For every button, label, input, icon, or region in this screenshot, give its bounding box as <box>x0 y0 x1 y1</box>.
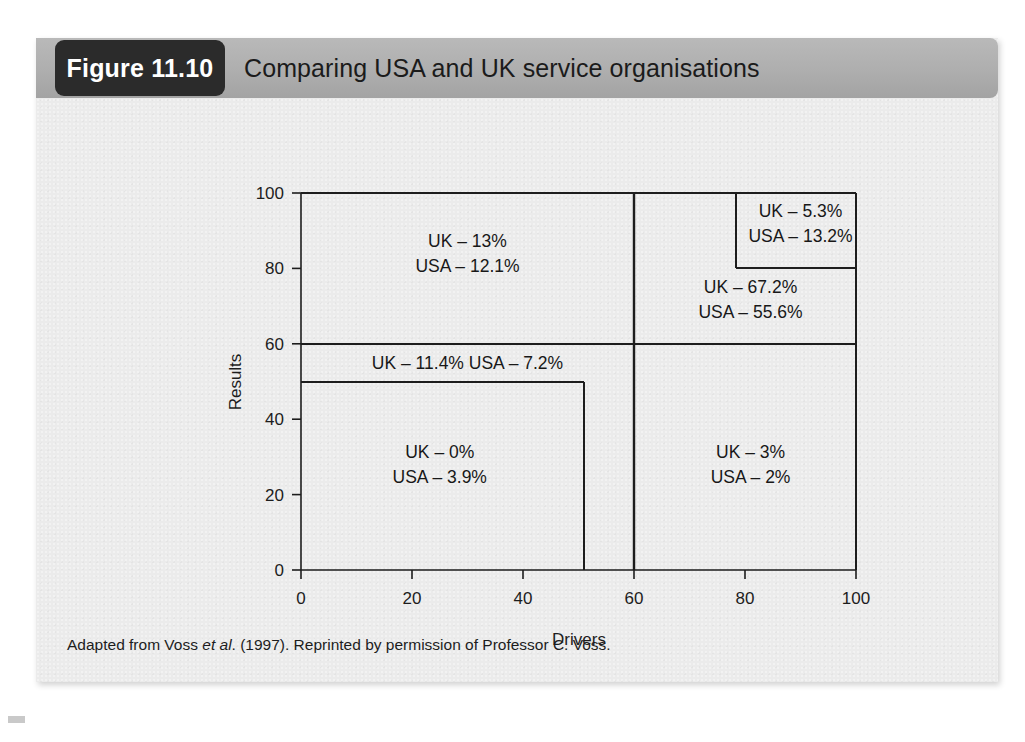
x-tick-label: 80 <box>736 589 755 608</box>
region-label-top-right-inner: USA – 13.2% <box>748 226 852 246</box>
page-edge-mark <box>8 716 25 723</box>
y-tick-label: 60 <box>265 335 284 354</box>
figure-title: Comparing USA and UK service organisatio… <box>244 38 760 98</box>
chart-region-lines <box>301 193 856 570</box>
region-label-middle-band: UK – 11.4% USA – 7.2% <box>372 353 563 373</box>
x-tick-label: 0 <box>296 589 305 608</box>
quadrant-chart: 020406080100 020406080100 <box>36 98 998 682</box>
region-label-top-right-inner: UK – 5.3% <box>759 201 843 221</box>
source-note-suffix: . (1997). Reprinted by permission of Pro… <box>232 636 611 653</box>
y-tick-label: 20 <box>265 486 284 505</box>
region-label-bottom-left: UK – 0% <box>405 442 474 462</box>
source-note-prefix: Adapted from Voss <box>67 636 202 653</box>
region-label-bottom-right: USA – 2% <box>711 467 791 487</box>
region-label-top-right-outer: UK – 67.2% <box>704 277 797 297</box>
region-label-top-left: USA – 12.1% <box>415 256 519 276</box>
region-label-bottom-left: USA – 3.9% <box>393 467 487 487</box>
source-note: Adapted from Voss et al. (1997). Reprint… <box>67 636 611 654</box>
figure-number-tag: Figure 11.10 <box>55 40 225 96</box>
x-tick-label: 20 <box>403 589 422 608</box>
x-tick-label: 40 <box>514 589 533 608</box>
source-note-italic: et al <box>202 636 231 653</box>
x-tick-label: 100 <box>842 589 870 608</box>
chart-plot-area: 020406080100 020406080100 <box>36 98 998 682</box>
y-tick-label: 0 <box>275 561 284 580</box>
x-axis-ticks: 020406080100 <box>296 570 870 608</box>
y-tick-label: 100 <box>256 184 284 203</box>
figure-card: Figure 11.10 Comparing USA and UK servic… <box>36 38 998 682</box>
chart-axes: 020406080100 020406080100 <box>256 184 871 608</box>
region-label-bottom-right: UK – 3% <box>716 442 785 462</box>
y-axis-ticks: 020406080100 <box>256 184 301 580</box>
region-label-top-right-outer: USA – 55.6% <box>698 302 802 322</box>
x-tick-label: 60 <box>625 589 644 608</box>
y-tick-label: 80 <box>265 259 284 278</box>
y-tick-label: 40 <box>265 410 284 429</box>
y-axis-title: Results <box>226 354 245 411</box>
region-label-top-left: UK – 13% <box>428 231 507 251</box>
figure-header-band: Figure 11.10 Comparing USA and UK servic… <box>36 38 998 98</box>
